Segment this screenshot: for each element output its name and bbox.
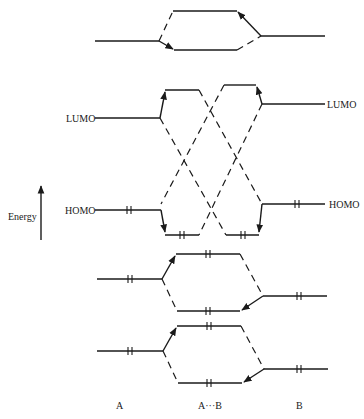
correlation-dashed-line: [161, 85, 224, 204]
a-lumo-label: LUMO: [66, 113, 95, 124]
group-top-interaction: [95, 11, 325, 50]
group-filled-interaction-2: [97, 322, 328, 387]
correlation-dashed-line: [237, 36, 261, 50]
column-label-a: A: [116, 400, 124, 411]
correlation-arrow: [238, 12, 261, 36]
correlation-dashed-line: [199, 104, 262, 235]
correlation-arrow: [161, 210, 165, 232]
b-lumo-label: LUMO: [327, 99, 356, 110]
b-homo-label: HOMO: [329, 199, 360, 210]
group-filled-interaction-1: [97, 250, 327, 315]
correlation-arrow: [257, 87, 262, 104]
group-frontier-orbitals: LUMO LUMO HOMO: [65, 85, 360, 239]
column-label-complex: A···B: [198, 400, 222, 411]
correlation-dashed-line: [241, 326, 264, 369]
correlation-dashed-line: [240, 254, 263, 296]
energy-axis: Energy: [8, 186, 41, 240]
correlation-dashed-line: [163, 351, 178, 383]
mo-diagram: LUMO LUMO HOMO: [0, 0, 364, 419]
column-label-b: B: [296, 400, 303, 411]
correlation-arrow: [160, 92, 165, 118]
correlation-arrow: [259, 204, 262, 232]
correlation-arrow: [242, 296, 263, 310]
correlation-dashed-line: [162, 279, 177, 311]
correlation-arrow: [244, 369, 264, 382]
correlation-dashed-line: [160, 118, 226, 235]
correlation-dashed-line: [159, 11, 173, 41]
correlation-arrow: [162, 256, 175, 279]
energy-axis-label: Energy: [8, 211, 37, 222]
correlation-dashed-line: [199, 90, 262, 204]
correlation-arrow: [163, 328, 176, 351]
correlation-arrow: [159, 41, 173, 49]
a-homo-label: HOMO: [65, 205, 96, 216]
